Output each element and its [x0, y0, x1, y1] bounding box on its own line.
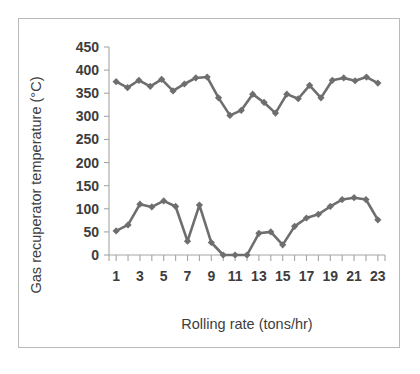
- x-tick-label: 19: [322, 268, 338, 284]
- series-1: [113, 73, 382, 119]
- x-tick-label: 5: [160, 268, 168, 284]
- y-tick-label: 50: [83, 224, 99, 240]
- series-line: [116, 77, 378, 115]
- data-point-marker: [232, 251, 239, 258]
- x-tick-label: 17: [299, 268, 315, 284]
- series-2: [113, 194, 382, 259]
- x-tick-label: 13: [251, 268, 267, 284]
- data-point-marker: [196, 201, 203, 208]
- x-axis-title: Rolling rate (tons/hr): [181, 316, 312, 332]
- y-tick-label: 450: [76, 39, 100, 55]
- x-tick-label: 1: [112, 268, 120, 284]
- series-line: [116, 198, 378, 255]
- figure-panel: 0501001502002503003504004501357911131517…: [18, 18, 400, 348]
- line-chart: 0501001502002503003504004501357911131517…: [19, 19, 399, 347]
- data-point-marker: [352, 77, 359, 84]
- y-tick-label: 250: [76, 131, 100, 147]
- data-point-marker: [350, 194, 357, 201]
- data-point-marker: [184, 238, 191, 245]
- data-point-marker: [340, 74, 347, 81]
- y-tick-label: 100: [76, 201, 100, 217]
- x-tick-label: 15: [275, 268, 291, 284]
- x-tick-label: 7: [184, 268, 192, 284]
- y-tick-label: 200: [76, 155, 100, 171]
- y-tick-label: 150: [76, 178, 100, 194]
- x-tick-label: 23: [370, 268, 386, 284]
- x-tick-label: 11: [228, 268, 243, 284]
- y-tick-label: 300: [76, 108, 100, 124]
- chart-area: 0501001502002503003504004501357911131517…: [19, 19, 399, 347]
- y-axis-title: Gas recuperator temperature (°C): [28, 77, 44, 294]
- caption-strip: [0, 352, 420, 374]
- y-tick-label: 400: [76, 62, 100, 78]
- x-tick-label: 3: [136, 268, 144, 284]
- y-tick-label: 350: [76, 85, 100, 101]
- x-tick-label: 9: [207, 268, 215, 284]
- x-tick-label: 21: [346, 268, 362, 284]
- y-tick-label: 0: [91, 247, 99, 263]
